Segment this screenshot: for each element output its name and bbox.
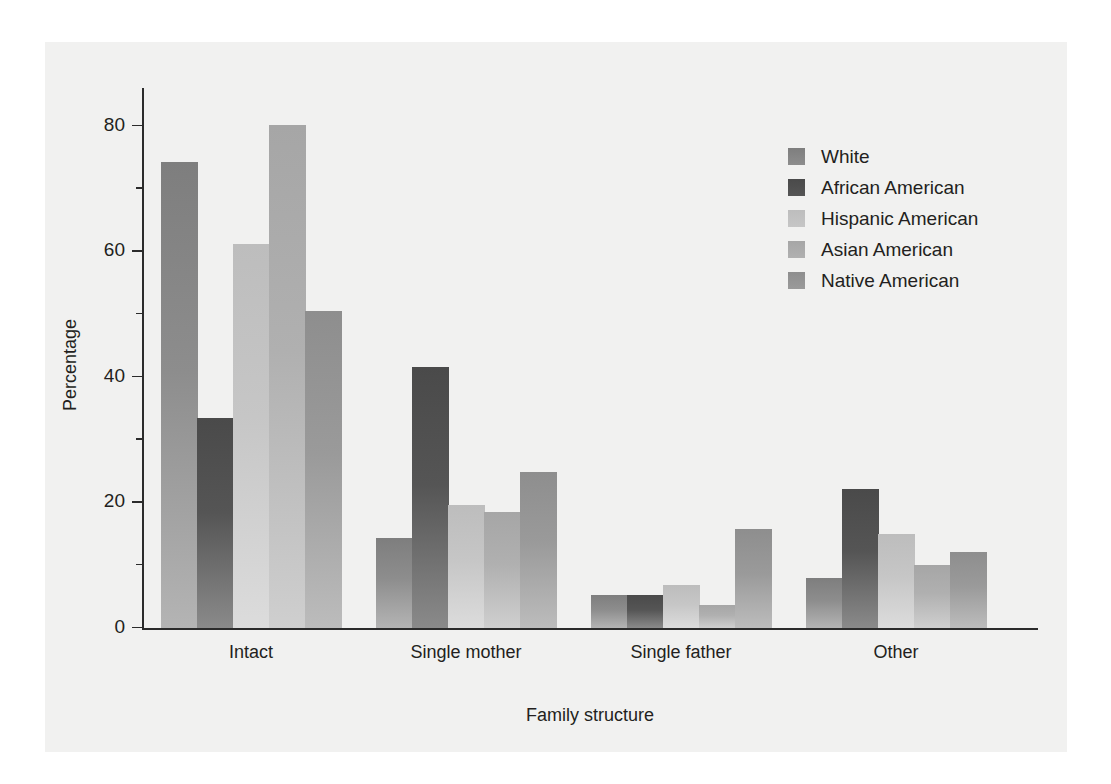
legend-label: Hispanic American	[821, 208, 978, 230]
y-tick-label: 20	[104, 490, 125, 512]
y-tick-label: 80	[104, 114, 125, 136]
bar[interactable]	[233, 244, 270, 628]
y-axis-title: Percentage	[60, 318, 81, 410]
bar[interactable]	[448, 505, 485, 628]
y-tick-80: 80	[132, 125, 142, 126]
y-tick-20: 20	[132, 501, 142, 502]
bar[interactable]	[269, 125, 306, 628]
y-axis-line	[142, 88, 144, 629]
x-tick-label: Intact	[229, 642, 273, 663]
legend-swatch-icon	[788, 210, 805, 227]
bar[interactable]	[197, 418, 234, 628]
bar[interactable]	[663, 585, 700, 628]
legend-item[interactable]: White	[788, 141, 1038, 172]
legend-item[interactable]: Hispanic American	[788, 203, 1038, 234]
bar[interactable]	[699, 605, 736, 628]
bar[interactable]	[376, 538, 413, 628]
y-tick-minor-30	[136, 438, 142, 439]
legend-swatch-icon	[788, 272, 805, 289]
legend-swatch-icon	[788, 148, 805, 165]
chart-legend: WhiteAfrican AmericanHispanic AmericanAs…	[788, 141, 1038, 296]
y-tick-minor-50	[136, 313, 142, 314]
bar-group: Single mother	[376, 101, 556, 628]
bar[interactable]	[161, 162, 198, 628]
bar[interactable]	[520, 472, 557, 628]
bar[interactable]	[484, 512, 521, 628]
figure-panel: 020406080 IntactSingle motherSingle fath…	[45, 42, 1067, 752]
bar[interactable]	[878, 534, 915, 628]
legend-item[interactable]: Asian American	[788, 234, 1038, 265]
legend-label: African American	[821, 177, 965, 199]
x-tick-label: Other	[873, 642, 918, 663]
y-tick-label: 60	[104, 239, 125, 261]
x-axis-line	[142, 628, 1038, 630]
legend-item[interactable]: Native American	[788, 265, 1038, 296]
bar[interactable]	[914, 565, 951, 628]
bar[interactable]	[950, 552, 987, 628]
legend-swatch-icon	[788, 179, 805, 196]
y-tick-40: 40	[132, 376, 142, 377]
legend-label: White	[821, 146, 870, 168]
y-tick-60: 60	[132, 250, 142, 251]
y-tick-label: 0	[114, 616, 125, 638]
x-axis-title: Family structure	[142, 705, 1038, 726]
x-tick-label: Single father	[630, 642, 731, 663]
legend-label: Native American	[821, 270, 959, 292]
y-tick-label: 40	[104, 365, 125, 387]
legend-label: Asian American	[821, 239, 953, 261]
bar[interactable]	[305, 311, 342, 628]
y-tick-0: 0	[132, 627, 142, 628]
bar[interactable]	[842, 489, 879, 628]
bar-group: Single father	[591, 101, 771, 628]
bar-group: Intact	[161, 101, 341, 628]
y-tick-minor-70	[136, 187, 142, 188]
bar[interactable]	[735, 529, 772, 628]
legend-swatch-icon	[788, 241, 805, 258]
bar[interactable]	[412, 367, 449, 628]
bar[interactable]	[806, 578, 843, 628]
bar[interactable]	[627, 595, 664, 628]
bar[interactable]	[591, 595, 628, 628]
x-tick-label: Single mother	[410, 642, 521, 663]
y-tick-minor-10	[136, 564, 142, 565]
legend-item[interactable]: African American	[788, 172, 1038, 203]
